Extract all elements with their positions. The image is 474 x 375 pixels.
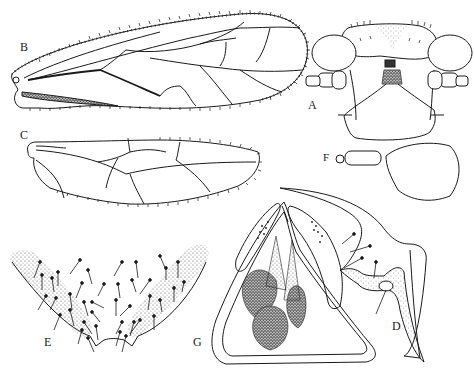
panel-label-f: F <box>323 151 329 163</box>
plate-drawings <box>0 0 474 375</box>
head-drawing <box>306 24 472 140</box>
panel-label-d: D <box>392 319 401 334</box>
antenna-drawing <box>336 143 459 200</box>
panel-label-a: A <box>308 98 317 113</box>
panel-label-c: C <box>20 128 28 143</box>
figure-plate: B C A F E G D <box>0 0 474 375</box>
hindwing-drawing <box>27 138 259 204</box>
subgenital-plate-drawing <box>10 245 209 346</box>
hindwing-setae <box>57 137 262 207</box>
forewing-setae <box>30 10 310 111</box>
panel-label-g: G <box>193 335 202 350</box>
panel-label-e: E <box>44 335 51 350</box>
panel-label-b: B <box>20 40 28 55</box>
clasper-drawing <box>280 188 426 362</box>
forewing-drawing <box>12 14 308 109</box>
